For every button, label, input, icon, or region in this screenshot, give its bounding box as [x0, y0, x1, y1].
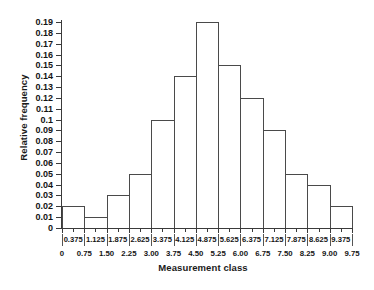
y-axis-title: Relative frequency [18, 43, 29, 193]
histogram-bar [62, 206, 85, 228]
x-axis-tick [151, 229, 152, 233]
plot-area [62, 22, 352, 228]
x-axis-minor-tick [185, 229, 186, 232]
x-axis-minor-tick [319, 229, 320, 232]
x-axis-minor-tick [296, 229, 297, 232]
x-axis-tick [307, 229, 308, 233]
y-axis-tick-label: 0.06 [35, 159, 53, 168]
x-axis-minor-tick [73, 229, 74, 232]
histogram-bar [107, 195, 130, 228]
histogram-bar [285, 174, 308, 228]
histogram-bar [330, 206, 353, 228]
y-axis-tick-label: 0 [48, 224, 53, 233]
x-axis-minor-tick [118, 229, 119, 232]
y-axis-tick-label: 0.15 [35, 61, 53, 70]
y-axis-tick-label: 0.16 [35, 51, 53, 60]
x-axis-minor-tick [274, 229, 275, 232]
histogram-bar [196, 22, 219, 228]
y-axis-tick-label: 0.09 [35, 126, 53, 135]
histogram-bar [263, 130, 286, 228]
y-axis-tick-label: 0.19 [35, 18, 53, 27]
y-axis-tick-label: 0.13 [35, 83, 53, 92]
y-axis-tick-label: 0.08 [35, 137, 53, 146]
x-axis-tick [218, 229, 219, 233]
y-axis-tick-label: 0.04 [35, 181, 53, 190]
x-axis-tick [129, 229, 130, 233]
x-axis-tick [196, 229, 197, 233]
y-axis-tick-label: 0.12 [35, 94, 53, 103]
x-axis-tick [84, 229, 85, 233]
histogram-bar [129, 174, 152, 228]
x-axis-edge-label: 9.75 [336, 249, 368, 259]
y-axis-tick-label: 0.18 [35, 29, 53, 38]
histogram-bar [174, 76, 197, 228]
x-axis-tick [174, 229, 175, 233]
x-axis-title: Measurement class [58, 262, 348, 273]
y-axis-tick-label: 0.17 [35, 40, 53, 49]
x-axis-tick [330, 229, 331, 233]
y-axis-tick-label: 0.07 [35, 148, 53, 157]
histogram-bar [151, 120, 174, 228]
x-axis-minor-tick [140, 229, 141, 232]
x-axis-tick [352, 229, 353, 233]
histogram-figure: Relative frequency Measurement class 00.… [0, 0, 374, 290]
x-axis-tick [107, 229, 108, 233]
x-axis-class-label: 9.375 [325, 235, 357, 245]
x-axis-minor-tick [341, 229, 342, 232]
y-axis-tick-label: 0.14 [35, 72, 53, 81]
x-axis-tick [62, 229, 63, 233]
x-axis-minor-tick [207, 229, 208, 232]
y-axis-tick-label: 0.05 [35, 170, 53, 179]
y-axis-tick-label: 0.02 [35, 202, 53, 211]
x-axis-tick [240, 229, 241, 233]
x-axis-minor-tick [162, 229, 163, 232]
histogram-bar [307, 185, 330, 228]
y-axis-tick-label: 0.11 [36, 105, 53, 114]
y-axis-tick-label: 0.01 [35, 213, 53, 222]
histogram-bar [240, 98, 263, 228]
histogram-bar [84, 217, 107, 228]
y-axis-tick-label: 0.1 [40, 116, 53, 125]
x-axis-tick [263, 229, 264, 233]
x-axis-tick [285, 229, 286, 233]
x-axis-minor-tick [229, 229, 230, 232]
y-axis-tick-label: 0.03 [35, 191, 53, 200]
x-axis-minor-tick [252, 229, 253, 232]
histogram-bar [218, 65, 241, 228]
x-axis-minor-tick [95, 229, 96, 232]
